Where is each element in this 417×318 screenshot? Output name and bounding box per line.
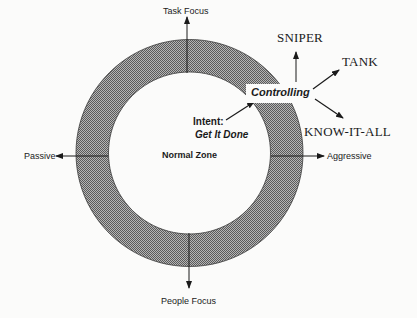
behavior-label-controlling: Controlling <box>251 87 310 98</box>
outcome-label-sniper: SNIPER <box>277 31 323 44</box>
axis-label-passive: Passive <box>24 152 56 161</box>
axis-label-aggressive: Aggressive <box>327 152 372 161</box>
outcome-label-know-it-all: KNOW-IT-ALL <box>304 125 391 138</box>
center-label-normal-zone: Normal Zone <box>162 151 217 160</box>
intent-arrow <box>226 102 254 120</box>
intent-value: Get It Done <box>195 130 248 140</box>
tank-arrow <box>313 70 339 89</box>
axis-label-task-focus: Task Focus <box>163 7 209 16</box>
intent-label: Intent: <box>193 117 224 127</box>
outcome-label-tank: TANK <box>342 55 378 68</box>
axis-label-people-focus: People Focus <box>161 297 216 306</box>
know-it-all-arrow <box>315 99 343 118</box>
